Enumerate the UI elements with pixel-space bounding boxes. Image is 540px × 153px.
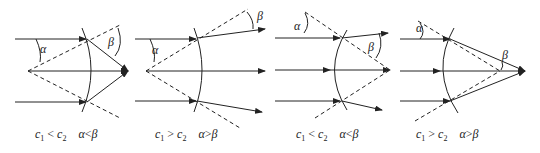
angle-operator: >	[205, 127, 212, 141]
beta-symbol: β	[353, 127, 359, 141]
panel-3-beta-label: β	[368, 40, 374, 55]
angle-operator: <	[346, 127, 353, 141]
beta-symbol: β	[92, 127, 98, 141]
panel-4-alpha-label: α	[416, 21, 422, 36]
panel-2-alpha-label: α	[152, 43, 158, 58]
panel-1-alpha-label: α	[40, 42, 46, 57]
c1-subscript: 1	[301, 134, 305, 143]
c2-subscript: 2	[62, 134, 66, 143]
panel-3-caption: c1 < c2 α<β	[296, 127, 359, 143]
beta-symbol: β	[473, 127, 479, 141]
panel-3-alpha-label: α	[294, 19, 300, 34]
c-operator: <	[308, 127, 315, 141]
angle-operator: >	[466, 127, 473, 141]
panel-2-diagram	[135, 9, 265, 128]
c2-subscript: 2	[323, 134, 327, 143]
c-operator: >	[428, 127, 435, 141]
c2-subscript: 2	[182, 134, 186, 143]
c1-subscript: 1	[160, 134, 164, 143]
panel-2-caption: c1 > c2 α>β	[155, 127, 218, 143]
panel-4-caption: c1 > c2 α>β	[416, 127, 479, 143]
c2-subscript: 2	[443, 134, 447, 143]
panel-3-diagram	[275, 12, 390, 118]
panel-1-beta-label: β	[108, 35, 114, 50]
panel-4-beta-label: β	[502, 48, 508, 63]
panel-2-beta-label: β	[257, 9, 263, 24]
c1-subscript: 1	[40, 134, 44, 143]
c-operator: <	[47, 127, 54, 141]
c1-subscript: 1	[421, 134, 425, 143]
panel-1-caption: c1 < c2 α<β	[35, 127, 98, 143]
angle-operator: <	[85, 127, 92, 141]
panel-4-diagram	[400, 21, 525, 121]
c-operator: >	[167, 127, 174, 141]
beta-symbol: β	[212, 127, 218, 141]
